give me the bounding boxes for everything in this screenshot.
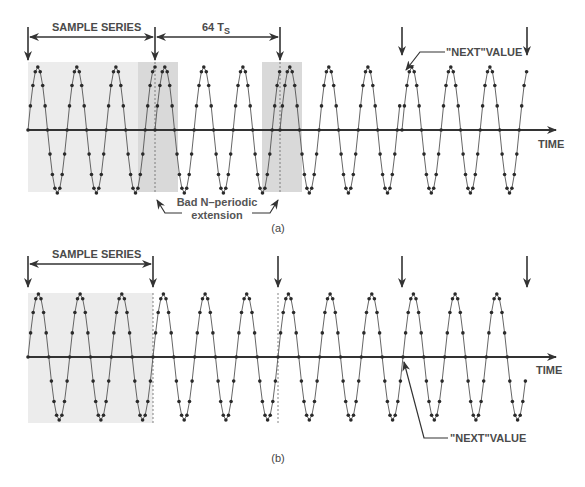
caption-a: (a) bbox=[271, 222, 284, 234]
caption-b: (b) bbox=[271, 452, 284, 464]
bad-extension-label-line1: Bad N–periodic bbox=[177, 196, 258, 208]
bad-extension-shade-1 bbox=[138, 62, 178, 192]
panel-b: TIME SAMPLE SERIES "NEXT"VALUE (b) bbox=[26, 248, 562, 464]
bad-extension-label-line2: extension bbox=[191, 209, 243, 221]
bad-extension-shade-2 bbox=[262, 62, 302, 192]
next-value-label: "NEXT"VALUE bbox=[446, 46, 522, 58]
next-value-label: "NEXT"VALUE bbox=[450, 432, 526, 444]
time-label: TIME bbox=[536, 364, 562, 376]
panel-a: TIME SAMPLE SERIES 64 TS "NEXT"VALUE Bad… bbox=[26, 21, 564, 234]
period-label: 64 TS bbox=[202, 21, 230, 36]
sample-series-label: SAMPLE SERIES bbox=[52, 248, 141, 260]
period-markers bbox=[28, 256, 527, 287]
time-label: TIME bbox=[538, 138, 564, 150]
periodic-extension-figure: TIME SAMPLE SERIES 64 TS "NEXT"VALUE Bad… bbox=[0, 0, 585, 487]
sample-series-label: SAMPLE SERIES bbox=[52, 21, 141, 33]
